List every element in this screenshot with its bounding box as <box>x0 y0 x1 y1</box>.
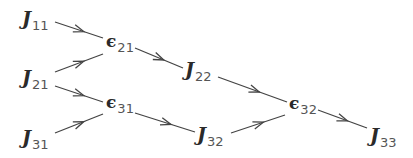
edge-J21-to-e21 <box>55 54 103 72</box>
edge-J32-to-e32 <box>231 115 285 133</box>
node-subscript: 21 <box>117 40 134 55</box>
node-J33: J33 <box>370 126 397 145</box>
node-J31: J31 <box>22 128 49 147</box>
node-symbol: J <box>22 7 31 29</box>
node-J11: J11 <box>22 9 49 28</box>
edge-e31-to-J32 <box>135 113 195 132</box>
edge-line <box>231 115 285 133</box>
node-e21: ϵ21 <box>106 33 134 50</box>
node-symbol: J <box>22 126 31 148</box>
node-J32: J32 <box>197 125 224 144</box>
node-subscript: 22 <box>195 69 212 84</box>
node-symbol: J <box>370 124 379 146</box>
edge-line <box>318 110 367 128</box>
node-symbol: J <box>22 66 31 88</box>
node-J22: J22 <box>185 60 212 79</box>
edge-line <box>135 48 183 68</box>
node-subscript: 21 <box>32 77 49 92</box>
edge-line <box>135 113 195 132</box>
node-symbol: ϵ <box>106 31 116 51</box>
node-e32: ϵ32 <box>289 95 317 112</box>
edge-line <box>55 86 103 102</box>
node-symbol: J <box>185 58 194 80</box>
node-subscript: 32 <box>207 134 224 149</box>
edge-J22-to-e32 <box>218 77 287 102</box>
node-symbol: ϵ <box>106 92 116 112</box>
edge-e21-to-J22 <box>135 48 183 68</box>
node-symbol: ϵ <box>289 93 299 113</box>
node-e31: ϵ31 <box>106 94 134 111</box>
edge-J21-to-e31 <box>55 86 103 102</box>
edge-J31-to-e31 <box>55 114 103 133</box>
node-subscript: 33 <box>380 135 397 150</box>
edge-line <box>55 114 103 133</box>
edge-line <box>55 22 103 38</box>
dependency-diagram: J11ϵ21J21J22ϵ31J31J32ϵ32J33 <box>0 0 413 158</box>
node-subscript: 11 <box>32 18 49 33</box>
node-subscript: 31 <box>117 101 134 116</box>
node-subscript: 32 <box>300 102 317 117</box>
edge-e32-to-J33 <box>318 110 367 128</box>
node-J21: J21 <box>22 68 49 87</box>
edge-line <box>218 77 287 102</box>
node-symbol: J <box>197 123 206 145</box>
node-subscript: 31 <box>32 137 49 152</box>
edge-line <box>55 54 103 72</box>
edge-J11-to-e21 <box>55 22 103 38</box>
